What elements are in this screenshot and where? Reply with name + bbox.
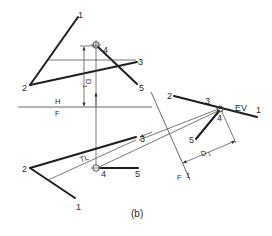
aux-label-2: 2 bbox=[167, 91, 172, 101]
svg-text:1: 1 bbox=[82, 85, 88, 88]
top-line-1-2 bbox=[30, 17, 78, 85]
edge-view-label: EV bbox=[235, 103, 247, 113]
figure-caption: (b) bbox=[131, 208, 143, 219]
front-label-5: 5 bbox=[135, 169, 140, 179]
hf-label-h: H bbox=[55, 97, 60, 106]
aux-line-5-4 bbox=[196, 111, 219, 139]
top-label-4: 4 bbox=[103, 45, 108, 55]
auxiliary-view: 2 3 4 5 1 EV D 1 bbox=[167, 91, 261, 163]
top-line-2-3 bbox=[30, 62, 137, 85]
true-length-label: TL bbox=[79, 153, 90, 164]
aux-label-3: 3 bbox=[205, 96, 210, 106]
top-label-1: 1 bbox=[78, 10, 83, 20]
aux-label-1: 1 bbox=[256, 105, 261, 115]
top-label-5: 5 bbox=[139, 83, 144, 93]
f1-label-f: F bbox=[177, 173, 182, 182]
front-line-2-1 bbox=[30, 168, 75, 198]
hf-label-f: F bbox=[55, 109, 60, 118]
aux-d1-label: D 1 bbox=[199, 147, 211, 160]
front-label-4: 4 bbox=[101, 169, 106, 179]
aux-d1-extension bbox=[221, 110, 236, 143]
front-label-1: 1 bbox=[76, 202, 81, 212]
aux-label-4: 4 bbox=[217, 113, 222, 123]
aux-label-5: 5 bbox=[189, 135, 194, 145]
descriptive-geometry-diagram: 1 2 3 4 5 D 1 H F 1 2 3 4 5 TL bbox=[0, 0, 272, 236]
front-tl-line bbox=[48, 140, 136, 180]
f1-fold-line bbox=[151, 92, 190, 180]
fold-line-hf: H F bbox=[18, 97, 152, 118]
front-label-2: 2 bbox=[22, 164, 27, 174]
f1-label-1: 1 bbox=[186, 171, 190, 180]
fold-line-f1: F 1 bbox=[151, 92, 190, 182]
front-view: 1 2 3 4 5 TL bbox=[22, 108, 221, 212]
front-label-3: 3 bbox=[140, 134, 145, 144]
top-label-3: 3 bbox=[138, 57, 143, 67]
top-label-2: 2 bbox=[22, 83, 27, 93]
top-view: 1 2 3 4 5 D 1 bbox=[22, 10, 144, 106]
